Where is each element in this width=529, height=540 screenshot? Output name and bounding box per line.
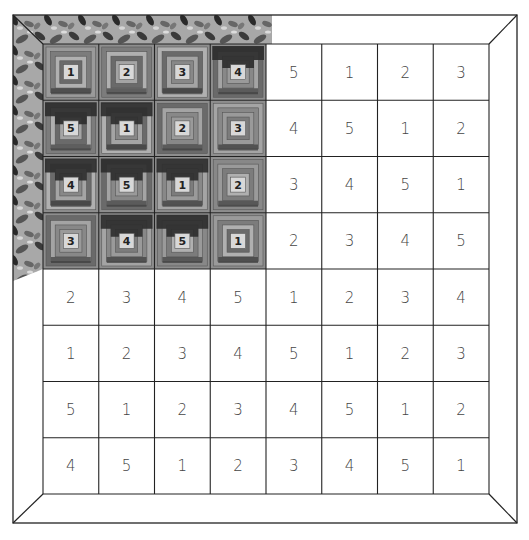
block-label: 1 [179, 179, 187, 192]
grid-cell-number: 1 [178, 457, 188, 475]
grid-cell-number: 3 [345, 232, 355, 250]
grid-cell-number: 2 [401, 64, 411, 82]
log-cabin-block: 1 [99, 100, 155, 156]
grid-cell-number: 1 [456, 457, 466, 475]
grid-cell-number: 2 [122, 345, 132, 363]
grid-cell-number: 4 [66, 457, 76, 475]
block-label: 5 [123, 179, 131, 192]
block-label: 1 [234, 235, 242, 248]
log-cabin-block: 3 [155, 44, 211, 100]
log-cabin-block: 4 [210, 44, 266, 100]
grid-cell-number: 3 [456, 345, 466, 363]
grid-cell-number: 4 [289, 401, 299, 419]
grid-cell-number: 3 [401, 289, 411, 307]
grid-cell-number: 2 [66, 289, 76, 307]
log-cabin-block: 5 [155, 213, 211, 269]
grid-cell-number: 3 [289, 457, 299, 475]
grid-cell-number: 4 [289, 120, 299, 138]
grid-cell-number: 5 [66, 401, 76, 419]
miter-corner-line [13, 494, 43, 523]
block-label: 2 [179, 122, 187, 135]
block-label: 3 [234, 122, 242, 135]
grid-cell-number: 1 [345, 64, 355, 82]
log-cabin-block: 1 [155, 157, 211, 213]
printed-border-top [13, 15, 272, 44]
log-cabin-block: 2 [155, 100, 211, 156]
quilt-diagram-canvas: 1234512345123451 51234512345123452345123… [0, 0, 529, 540]
grid-cell-number: 5 [345, 120, 355, 138]
log-cabin-block: 5 [99, 157, 155, 213]
log-cabin-block: 4 [43, 157, 99, 213]
block-label: 5 [67, 122, 75, 135]
log-cabin-block: 5 [43, 100, 99, 156]
grid-cell-number: 3 [456, 64, 466, 82]
grid-cell-number: 2 [178, 401, 188, 419]
block-label: 2 [234, 179, 242, 192]
block-label: 3 [179, 66, 187, 79]
block-label: 5 [179, 235, 187, 248]
grid-cell-number: 5 [456, 232, 466, 250]
block-label: 1 [67, 66, 75, 79]
grid-cell-number: 5 [233, 289, 243, 307]
block-label: 4 [234, 66, 242, 79]
miter-corner-line [489, 494, 517, 523]
log-cabin-block: 4 [99, 213, 155, 269]
block-label: 3 [67, 235, 75, 248]
grid-cell-number: 3 [122, 289, 132, 307]
block-label: 4 [67, 179, 75, 192]
log-cabin-block: 2 [99, 44, 155, 100]
block-label: 4 [123, 235, 131, 248]
grid-cell-number: 2 [345, 289, 355, 307]
grid-cell-number: 2 [233, 457, 243, 475]
grid-cell-number: 4 [401, 232, 411, 250]
grid-cell-number: 5 [401, 457, 411, 475]
printed-border-left [13, 15, 43, 281]
grid-cell-number: 1 [289, 289, 299, 307]
grid-cell-number: 5 [401, 176, 411, 194]
block-label: 1 [123, 122, 131, 135]
log-cabin-block: 3 [210, 100, 266, 156]
block-label: 2 [123, 66, 131, 79]
grid-cell-number: 4 [345, 176, 355, 194]
grid-cell-number: 3 [289, 176, 299, 194]
grid-cell-number: 1 [401, 401, 411, 419]
miter-corner-line [489, 15, 517, 44]
grid-cell-number: 2 [456, 401, 466, 419]
grid-cell-number: 1 [122, 401, 132, 419]
quilt-diagram: 1234512345123451 51234512345123452345123… [0, 0, 529, 540]
log-cabin-block: 1 [210, 213, 266, 269]
grid-cell-number: 4 [233, 345, 243, 363]
grid-cell-number: 5 [289, 345, 299, 363]
grid-cell-number: 5 [345, 401, 355, 419]
log-cabin-block: 2 [210, 157, 266, 213]
grid-cell-number: 1 [456, 176, 466, 194]
grid-cell-number: 1 [345, 345, 355, 363]
grid-cell-number: 2 [289, 232, 299, 250]
grid-cell-number: 3 [178, 345, 188, 363]
log-cabin-block: 1 [43, 44, 99, 100]
grid-cell-number: 2 [401, 345, 411, 363]
grid-cell-number: 1 [401, 120, 411, 138]
grid-cell-number: 2 [456, 120, 466, 138]
grid-cell-number: 4 [345, 457, 355, 475]
grid-cell-number: 5 [122, 457, 132, 475]
grid-cell-number: 3 [233, 401, 243, 419]
grid-cell-number: 4 [178, 289, 188, 307]
grid-cell-number: 4 [456, 289, 466, 307]
grid-cell-number: 5 [289, 64, 299, 82]
log-cabin-block: 3 [43, 213, 99, 269]
grid-cell-number: 1 [66, 345, 76, 363]
